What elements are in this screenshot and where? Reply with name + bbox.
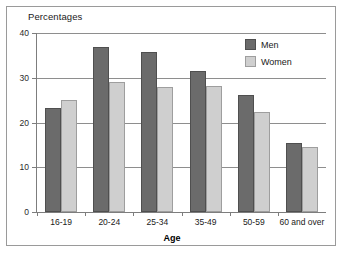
y-axis-tick	[32, 78, 37, 79]
y-axis-label: 20	[20, 118, 29, 128]
legend-label: Men	[261, 40, 279, 50]
x-axis-label-50-59: 50-59	[243, 217, 265, 227]
bar-women-20-24	[109, 82, 125, 212]
y-axis-tick	[32, 33, 37, 34]
x-axis-tick	[133, 212, 134, 216]
gridline	[37, 123, 326, 124]
bar-men-60-and-over	[286, 143, 302, 212]
chart-legend: MenWomen	[245, 39, 292, 67]
bar-women-50-59	[254, 112, 270, 212]
bar-men-16-19	[45, 108, 61, 212]
legend-item-men: Men	[245, 39, 292, 50]
bar-men-35-49	[190, 71, 206, 212]
legend-swatch-icon	[245, 56, 256, 67]
chart-title: Percentages	[28, 11, 82, 22]
y-axis-tick	[32, 123, 37, 124]
chart-figure: Percentages 01020304016-1920-2425-3435-4…	[0, 0, 342, 254]
bar-men-50-59	[238, 95, 254, 212]
x-axis-tick	[230, 212, 231, 216]
bar-men-25-34	[141, 52, 157, 212]
x-axis-tick	[278, 212, 279, 216]
gridline	[37, 78, 326, 79]
y-axis-label: 0	[24, 207, 29, 217]
y-axis-tick	[32, 167, 37, 168]
x-axis-title: Age	[163, 233, 180, 243]
legend-label: Women	[261, 57, 292, 67]
x-axis-label-25-34: 25-34	[147, 217, 169, 227]
legend-item-women: Women	[245, 56, 292, 67]
bar-women-60-and-over	[302, 147, 318, 212]
bar-women-16-19	[61, 100, 77, 212]
legend-swatch-icon	[245, 39, 256, 50]
y-axis-label: 30	[20, 73, 29, 83]
bar-men-20-24	[93, 47, 109, 212]
y-axis-label: 10	[20, 162, 29, 172]
x-axis-label-35-49: 35-49	[195, 217, 217, 227]
bar-women-35-49	[206, 86, 222, 212]
x-axis-tick	[37, 212, 38, 216]
x-axis-label-60-and-over: 60 and over	[279, 217, 324, 227]
bar-women-25-34	[157, 87, 173, 212]
x-axis-label-20-24: 20-24	[98, 217, 120, 227]
x-axis-tick	[182, 212, 183, 216]
gridline	[37, 167, 326, 168]
x-axis-tick	[85, 212, 86, 216]
gridline	[37, 33, 326, 34]
x-axis-label-16-19: 16-19	[50, 217, 72, 227]
y-axis-label: 40	[20, 28, 29, 38]
